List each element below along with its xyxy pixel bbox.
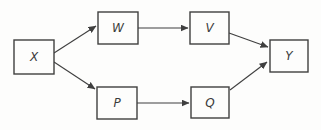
node-Q: Q xyxy=(191,87,229,118)
node-label-Q: Q xyxy=(205,96,214,110)
node-label-W: W xyxy=(112,21,125,35)
node-label-P: P xyxy=(113,96,121,110)
node-P: P xyxy=(97,87,137,119)
causal-graph-svg: XWVPQY xyxy=(0,0,321,130)
edge-Q-Y xyxy=(230,62,267,90)
node-X: X xyxy=(14,40,54,74)
diagram-canvas: XWVPQY xyxy=(0,0,321,130)
node-V: V xyxy=(190,12,229,44)
node-Y: Y xyxy=(270,40,308,72)
node-label-V: V xyxy=(205,21,214,35)
node-W: W xyxy=(98,12,138,44)
node-label-X: X xyxy=(29,50,39,64)
edge-V-Y xyxy=(229,33,268,47)
edge-X-W xyxy=(54,26,96,53)
edge-X-P xyxy=(54,62,95,89)
